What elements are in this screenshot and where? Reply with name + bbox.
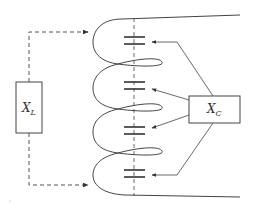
inductive-reactance-box: XL xyxy=(16,82,42,133)
capacitor-3 xyxy=(124,127,145,134)
diagram-canvas: XL XC xyxy=(0,0,254,208)
stray-dot xyxy=(9,200,10,201)
capacitor-4 xyxy=(124,170,145,177)
capacitor-1 xyxy=(124,37,145,44)
capacitive-reactance-box: XC xyxy=(189,96,240,123)
capacitor-2 xyxy=(124,82,145,89)
